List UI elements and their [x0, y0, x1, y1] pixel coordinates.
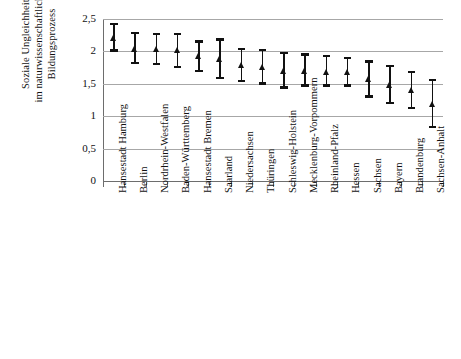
marker-triangle	[131, 46, 137, 52]
error-bar-cap-upper	[259, 49, 267, 51]
error-bar-cap-upper	[131, 32, 139, 34]
y-tick-label: 1	[66, 110, 96, 121]
x-category-label: Hansestadt Hamburg	[118, 104, 129, 193]
y-tick-label: 0	[66, 175, 96, 186]
error-bar-cap-upper	[174, 33, 182, 35]
error-bar-cap-upper	[386, 65, 394, 67]
marker-triangle	[344, 69, 350, 75]
x-category-label: Bayern	[394, 162, 405, 193]
marker-triangle	[323, 69, 329, 75]
y-tick-label: 1,5	[66, 78, 96, 89]
error-bar-cap-lower	[386, 102, 394, 104]
error-bar-cap-lower	[195, 70, 203, 72]
x-category-label: Nordrhein-Westfalen	[160, 104, 171, 193]
x-category-label: Schleswig-Holstein	[288, 110, 299, 193]
error-bar-cap-lower	[174, 66, 182, 68]
marker-triangle	[153, 46, 159, 52]
x-category-label: Brandenburg	[415, 138, 426, 193]
marker-triangle	[408, 87, 414, 93]
error-bar-cap-lower	[153, 63, 161, 65]
x-category-label: Hessen	[351, 162, 362, 193]
x-category-label: Mecklenburg-Vorpommern	[309, 77, 320, 193]
error-bar-cap-lower	[216, 77, 224, 79]
error-bar-cap-upper	[301, 53, 309, 55]
error-bar-cap-upper	[195, 40, 203, 42]
error-bar-cap-upper	[280, 52, 288, 54]
x-category-label: Baden-Württemberg	[181, 106, 192, 193]
error-bar-cap-lower	[365, 95, 373, 97]
error-bar-cap-upper	[408, 71, 416, 73]
error-bar-cap-lower	[131, 62, 139, 64]
marker-triangle	[301, 68, 307, 74]
marker-triangle	[429, 101, 435, 107]
error-bar-cap-upper	[323, 55, 331, 57]
error-bar-cap-lower	[408, 107, 416, 109]
y-axis-title: Soziale Ungleichheit im naturwissenschaf…	[8, 0, 68, 129]
error-bar-cap-lower	[110, 49, 118, 51]
error-bar-cap-upper	[365, 60, 373, 62]
marker-triangle	[386, 82, 392, 88]
x-category-label: Niedersachsen	[245, 131, 256, 193]
x-category-label: Hansestadt Bremen	[203, 110, 214, 193]
error-bar-cap-upper	[344, 57, 352, 59]
error-bar-cap-lower	[238, 80, 246, 82]
marker-triangle	[238, 62, 244, 68]
x-category-label: Rheinland-Pfalz	[330, 124, 341, 193]
gridline	[103, 116, 443, 117]
error-bar-cap-lower	[280, 86, 288, 88]
error-bar-cap-upper	[238, 48, 246, 50]
x-category-label: Berlin	[139, 166, 150, 193]
error-bar-cap-upper	[216, 38, 224, 40]
error-bar-cap-lower	[344, 84, 352, 86]
marker-triangle	[216, 56, 222, 62]
marker-triangle	[110, 35, 116, 41]
y-tick-label: 0,5	[66, 143, 96, 154]
error-bar-cap-upper	[153, 33, 161, 35]
error-bar-cap-lower	[323, 84, 331, 86]
error-bar-cap-upper	[429, 79, 437, 81]
marker-triangle	[174, 47, 180, 53]
x-category-label: Sachsen	[373, 158, 384, 193]
gridline	[103, 19, 443, 20]
marker-triangle	[195, 53, 201, 59]
chart-container: Soziale Ungleichheit im naturwissenschaf…	[0, 0, 461, 359]
x-category-label: Sachsen-Anhalt	[436, 126, 447, 193]
marker-triangle	[280, 68, 286, 74]
marker-triangle	[259, 64, 265, 70]
error-bar-cap-upper	[110, 23, 118, 25]
error-bar-cap-lower	[259, 82, 267, 84]
x-category-label: Thüringen	[266, 149, 277, 193]
y-tick-label: 2	[66, 45, 96, 56]
y-tick-label: 2,5	[66, 13, 96, 24]
x-tick	[103, 182, 104, 187]
x-category-label: Saarland	[224, 156, 235, 193]
marker-triangle	[365, 76, 371, 82]
